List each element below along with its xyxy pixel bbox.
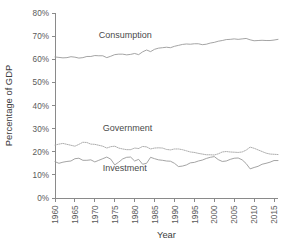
y-tick-label: 10% <box>33 171 49 180</box>
x-tick-label: 2010 <box>250 205 259 224</box>
x-axis-tick-labels: 1960196519701975198019851990199520002005… <box>51 205 279 224</box>
y-tick-label: 40% <box>33 102 49 111</box>
x-tick-label: 1995 <box>191 205 200 224</box>
x-axis-title: Year <box>157 229 176 240</box>
y-tick-label: 80% <box>33 9 49 18</box>
y-tick-label: 20% <box>33 148 49 157</box>
x-tick-label: 1960 <box>51 205 60 224</box>
x-tick-label: 1975 <box>111 205 120 224</box>
series-line-investment <box>55 157 278 169</box>
series-label-government: Government <box>103 123 153 133</box>
x-tick-label: 1990 <box>171 205 180 224</box>
x-tick-label: 1985 <box>151 205 160 224</box>
series-inline-labels: ConsumptionGovernmentInvestment <box>99 30 153 173</box>
series-line-consumption <box>55 38 278 58</box>
line-chart-svg: 0%10%20%30%40%50%60%70%80% 1960196519701… <box>0 0 286 245</box>
x-tick-label: 2015 <box>270 205 279 224</box>
y-tick-label: 30% <box>33 125 49 134</box>
x-axis-ticks <box>55 198 274 202</box>
series-label-investment: Investment <box>103 163 148 173</box>
x-tick-label: 1970 <box>91 205 100 224</box>
y-axis-tick-labels: 0%10%20%30%40%50%60%70%80% <box>33 9 49 203</box>
x-tick-label: 1980 <box>131 205 140 224</box>
y-tick-label: 0% <box>37 194 49 203</box>
series-label-consumption: Consumption <box>99 30 152 40</box>
y-tick-label: 70% <box>33 32 49 41</box>
y-axis-ticks <box>52 13 56 198</box>
series-line-government <box>55 142 278 155</box>
y-tick-label: 60% <box>33 55 49 64</box>
data-series-group <box>55 38 278 168</box>
x-tick-label: 1965 <box>71 205 80 224</box>
x-tick-label: 2005 <box>230 205 239 224</box>
chart-container: 0%10%20%30%40%50%60%70%80% 1960196519701… <box>0 0 286 245</box>
y-tick-label: 50% <box>33 78 49 87</box>
x-tick-label: 2000 <box>210 205 219 224</box>
x-axis: 1960196519701975198019851990199520002005… <box>51 198 279 224</box>
y-axis: 0%10%20%30%40%50%60%70%80% <box>33 9 55 203</box>
y-axis-title: Percentage of GDP <box>3 65 14 146</box>
